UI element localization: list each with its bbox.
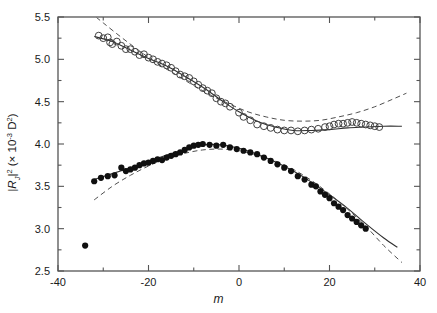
y-label-open: ( — [6, 163, 18, 170]
filled-data-point — [200, 141, 206, 147]
filled-data-point — [295, 173, 301, 179]
filled-data-point — [213, 143, 219, 149]
svg-text:40: 40 — [414, 276, 426, 288]
svg-text:2.5: 2.5 — [35, 265, 50, 277]
chart-background — [0, 0, 437, 313]
y-label-unit-power: 2 — [4, 118, 13, 122]
filled-data-point — [227, 144, 233, 150]
filled-data-point — [281, 165, 287, 171]
y-label-power: 2 — [4, 170, 13, 174]
x-axis-label: m — [0, 292, 437, 306]
filled-data-point — [105, 173, 111, 179]
filled-data-point — [220, 142, 226, 148]
y-label-bar: | — [6, 174, 18, 177]
svg-text:4.5: 4.5 — [35, 96, 50, 108]
y-axis-label: |RJ|2 (× 10-3 D2) — [0, 88, 26, 218]
svg-text:-40: -40 — [50, 276, 66, 288]
filled-data-point — [254, 151, 260, 157]
filled-data-point — [302, 176, 308, 182]
svg-text:4.0: 4.0 — [35, 138, 50, 150]
svg-text:0: 0 — [236, 276, 242, 288]
filled-data-point — [268, 158, 274, 164]
filled-data-point — [326, 195, 332, 201]
y-label-unit: D — [6, 122, 18, 134]
svg-text:5.0: 5.0 — [35, 53, 50, 65]
filled-data-point — [240, 148, 246, 154]
svg-text:20: 20 — [323, 276, 335, 288]
svg-text:-20: -20 — [141, 276, 157, 288]
filled-data-point — [313, 183, 319, 189]
y-label-times: × 10 — [6, 140, 18, 163]
filled-data-point — [91, 178, 97, 184]
y-label-J: J — [13, 177, 22, 181]
filled-data-point — [274, 161, 280, 167]
figure-root: -40-20020402.53.03.54.04.55.05.5 |RJ|2 (… — [0, 0, 437, 313]
filled-data-point — [363, 226, 369, 232]
scatter-chart: -40-20020402.53.03.54.04.55.05.5 — [0, 0, 437, 313]
filled-data-point — [234, 146, 240, 152]
y-label-exponent: -3 — [4, 133, 13, 140]
filled-data-point — [247, 149, 253, 155]
filled-data-point — [111, 172, 117, 178]
filled-data-point — [206, 142, 212, 148]
filled-data-point — [98, 175, 104, 181]
svg-text:3.0: 3.0 — [35, 223, 50, 235]
filled-data-point — [261, 154, 267, 160]
svg-text:5.5: 5.5 — [35, 11, 50, 23]
y-label-R: |R — [6, 181, 18, 192]
svg-text:3.5: 3.5 — [35, 180, 50, 192]
filled-data-point — [82, 243, 88, 249]
y-label-close: ) — [6, 114, 18, 118]
filled-data-point — [340, 207, 346, 213]
filled-data-point — [288, 168, 294, 174]
